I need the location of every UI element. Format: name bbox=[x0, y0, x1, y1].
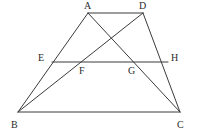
vertex-label-F: F bbox=[79, 66, 85, 76]
vertex-label-H: H bbox=[171, 53, 178, 63]
geometry-figure: A D E H F G B C bbox=[0, 0, 197, 137]
vertex-label-D: D bbox=[139, 1, 146, 11]
vertex-label-A: A bbox=[84, 1, 91, 11]
vertex-label-G: G bbox=[128, 66, 135, 76]
geometry-canvas bbox=[0, 0, 197, 137]
vertex-label-E: E bbox=[38, 53, 44, 63]
vertex-label-C: C bbox=[177, 120, 184, 130]
vertex-label-B: B bbox=[11, 120, 18, 130]
